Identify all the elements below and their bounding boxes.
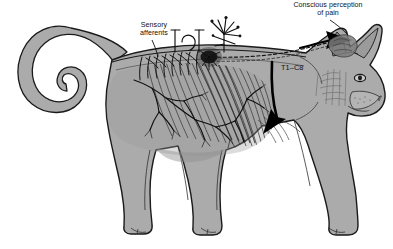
label-sensory-afferents: Sensoryafferents <box>127 21 181 38</box>
brain-region <box>329 35 358 57</box>
label-conscious-line1: Conscious perception <box>293 1 362 9</box>
pain-pathway-figure: Conscious perceptionof pain Sensoryaffer… <box>0 0 393 249</box>
pupil <box>358 76 362 81</box>
label-conscious-perception-of-pain: Conscious perceptionof pain <box>286 1 370 18</box>
label-conscious-line2: of pain <box>317 9 339 17</box>
label-sensory-line1: Sensory <box>141 21 167 29</box>
label-sensory-line2: afferents <box>140 29 168 37</box>
cat-anatomy-illustration <box>0 0 393 249</box>
label-spinal-segments-t1-c8: T1–C8 <box>281 64 303 72</box>
